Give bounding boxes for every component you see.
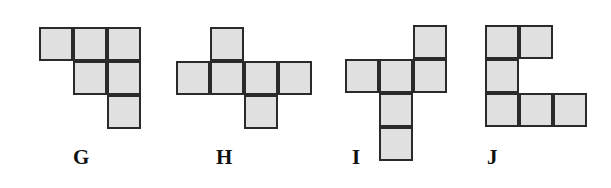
net-square [379, 59, 413, 93]
net-square [278, 61, 312, 95]
net-square [210, 61, 244, 95]
net-square [379, 93, 413, 127]
net-square [176, 61, 210, 95]
net-square [413, 25, 447, 59]
net-label: G [73, 145, 89, 170]
net-square [73, 27, 107, 61]
net-square [39, 27, 73, 61]
net-square [519, 25, 553, 59]
net-label: I [352, 145, 360, 170]
net-square [244, 61, 278, 95]
net-square [485, 93, 519, 127]
net-square [210, 27, 244, 61]
net-square [485, 59, 519, 93]
net-square [519, 93, 553, 127]
net-square [345, 59, 379, 93]
net-square [244, 95, 278, 129]
net-square [485, 25, 519, 59]
net-square [107, 27, 141, 61]
net-square [73, 61, 107, 95]
net-square [379, 127, 413, 161]
net-square [413, 59, 447, 93]
net-label: J [487, 145, 498, 170]
net-label: H [216, 145, 232, 170]
net-square [107, 61, 141, 95]
net-square [553, 93, 587, 127]
net-square [107, 95, 141, 129]
